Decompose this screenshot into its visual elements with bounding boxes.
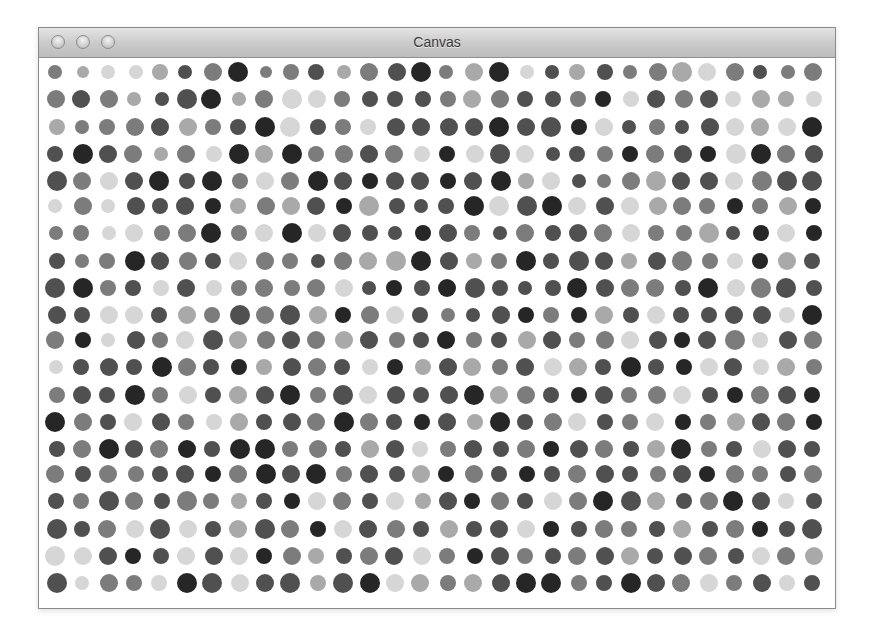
circle-shape xyxy=(777,171,797,191)
circle-shape xyxy=(804,441,820,457)
circle-shape xyxy=(621,491,641,511)
circle-shape xyxy=(101,199,115,213)
circle-shape xyxy=(49,226,63,240)
circle-shape xyxy=(490,144,510,164)
circle-shape xyxy=(597,414,613,430)
circle-shape xyxy=(47,171,67,191)
circle-shape xyxy=(646,413,664,431)
circle-shape xyxy=(778,91,794,107)
circle-shape xyxy=(440,118,458,136)
circle-shape xyxy=(779,575,795,591)
circle-shape xyxy=(804,465,822,483)
circle-shape xyxy=(386,251,406,271)
circle-shape xyxy=(622,120,636,134)
circle-shape xyxy=(622,466,638,482)
circle-shape xyxy=(255,224,273,242)
circle-shape xyxy=(45,278,65,298)
circle-shape xyxy=(516,573,536,593)
circle-shape xyxy=(751,118,769,136)
circle-shape xyxy=(546,147,560,161)
circle-shape xyxy=(595,306,613,324)
circle-shape xyxy=(99,439,119,459)
circle-shape xyxy=(125,224,143,242)
circle-shape xyxy=(545,91,561,107)
circle-shape xyxy=(804,331,822,349)
circle-shape xyxy=(492,359,508,375)
circle-shape xyxy=(490,386,508,404)
circle-shape xyxy=(176,331,194,349)
circle-shape xyxy=(571,521,587,537)
circle-shape xyxy=(752,547,770,565)
circle-shape xyxy=(152,466,168,482)
circle-shape xyxy=(570,440,588,458)
circle-shape xyxy=(727,387,743,403)
circle-shape xyxy=(280,305,300,325)
circle-shape xyxy=(126,575,142,591)
circle-shape xyxy=(490,520,508,538)
circle-shape xyxy=(672,574,690,592)
circle-shape xyxy=(100,358,118,376)
circle-shape xyxy=(415,359,431,375)
circle-shape xyxy=(335,441,351,457)
circle-shape xyxy=(387,118,405,136)
circle-shape xyxy=(648,386,666,404)
circle-shape xyxy=(702,253,718,269)
circle-shape xyxy=(413,332,429,348)
circle-shape xyxy=(517,196,537,216)
circle-shape xyxy=(804,63,822,81)
circle-shape xyxy=(700,90,718,108)
title-bar[interactable]: Canvas xyxy=(39,28,835,58)
circle-shape xyxy=(310,119,326,135)
circle-shape xyxy=(360,413,378,431)
circle-shape xyxy=(753,440,771,458)
circle-shape xyxy=(570,91,586,107)
circle-shape xyxy=(125,548,141,564)
circle-shape xyxy=(333,573,353,593)
circle-shape xyxy=(518,307,534,323)
circle-shape xyxy=(202,573,222,593)
circle-shape xyxy=(228,62,248,82)
circle-shape xyxy=(776,278,796,298)
circle-shape xyxy=(466,332,482,348)
circle-shape xyxy=(125,492,143,510)
circle-shape xyxy=(414,146,430,162)
circle-shape xyxy=(101,333,115,347)
circle-shape xyxy=(309,306,327,324)
circle-shape xyxy=(309,440,327,458)
circle-shape xyxy=(699,547,717,565)
circle-shape xyxy=(596,575,612,591)
circle-shape xyxy=(414,280,430,296)
circle-shape xyxy=(543,253,559,269)
circle-shape xyxy=(333,492,351,510)
circle-shape xyxy=(492,574,510,592)
circle-shape xyxy=(362,359,378,375)
circle-shape xyxy=(128,466,144,482)
circle-shape xyxy=(151,118,169,136)
circle-shape xyxy=(359,196,379,216)
circle-shape xyxy=(230,305,250,325)
circle-shape xyxy=(725,172,743,190)
circle-shape xyxy=(723,491,743,511)
circle-shape xyxy=(571,387,587,403)
circle-shape xyxy=(517,493,533,509)
circle-shape xyxy=(778,252,796,270)
circle-shape xyxy=(154,225,170,241)
circle-shape xyxy=(597,64,613,80)
circle-shape xyxy=(541,117,561,137)
circle-shape xyxy=(676,225,692,241)
drawing-canvas[interactable] xyxy=(39,58,835,608)
circle-shape xyxy=(99,465,117,483)
circle-shape xyxy=(179,173,195,189)
circle-shape xyxy=(647,440,665,458)
circle-shape xyxy=(649,197,667,215)
circle-shape xyxy=(568,547,586,565)
circle-shape xyxy=(100,574,118,592)
circle-shape xyxy=(568,197,586,215)
circle-shape xyxy=(621,387,637,403)
circle-shape xyxy=(310,521,326,537)
circle-shape xyxy=(152,387,168,403)
circle-shape xyxy=(284,493,300,509)
circle-shape xyxy=(544,358,562,376)
circle-shape xyxy=(672,251,692,271)
circle-shape xyxy=(74,413,92,431)
